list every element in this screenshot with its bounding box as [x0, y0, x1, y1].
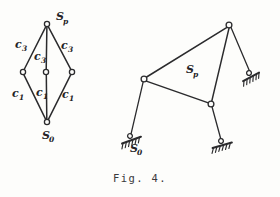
graph-joint-middle-center — [43, 69, 48, 74]
ground-support-right-upper — [238, 67, 261, 87]
graph-joint-sp — [44, 21, 49, 26]
graph-edge-label-c1-left: c — [12, 87, 19, 100]
coupler-edge-left-to-lower-right — [145, 81, 210, 104]
mechanism-joint-left — [141, 76, 147, 82]
graph-edge-label-c1-center-subscript: 1 — [43, 92, 48, 101]
graph-edge-label-c3-center: c — [34, 50, 41, 63]
graph-joint-s0 — [44, 119, 49, 124]
graph-joint-middle-left — [20, 69, 25, 74]
figure-caption-row: Fig. 4. — [0, 168, 280, 186]
graph-edge-label-c3-right: c — [61, 39, 68, 52]
kinematic-graph-rhombus: S p S 0 c 3 c 3 c 3 c 1 c 1 c 1 — [12, 10, 75, 144]
graph-edge-label-c1-right-subscript: 1 — [69, 94, 74, 103]
link-lower-right-to-ground-right-lower — [212, 106, 221, 139]
graph-edge-label-c3-left-subscript: 3 — [22, 44, 27, 53]
mechanism-label-sp-subscript: p — [193, 70, 199, 79]
ground-pivot-left-lower — [127, 133, 133, 139]
graph-label-sp-subscript: p — [63, 17, 69, 26]
ground-support-right-lower — [209, 136, 233, 153]
figure-caption: Fig. 4. — [113, 172, 167, 184]
graph-joint-middle-right — [69, 69, 74, 74]
linkage-mechanism: S p S 0 — [118, 22, 261, 157]
coupler-edge-apex-to-lower-right — [212, 27, 230, 101]
mechanism-joint-lower-right — [208, 101, 214, 107]
graph-edge-label-c3-center-subscript: 3 — [41, 56, 46, 65]
graph-edge-label-c3-right-subscript: 3 — [68, 45, 73, 54]
graph-edge-label-c1-right: c — [62, 88, 69, 101]
graph-label-s0-subscript: 0 — [49, 135, 55, 144]
graph-edge-label-c3-left: c — [15, 38, 22, 51]
graph-edge-label-c1-left-subscript: 1 — [19, 93, 24, 102]
ground-pivot-right-lower — [218, 138, 224, 144]
graph-edge-label-c1-center: c — [36, 86, 43, 99]
link-left-to-ground-left-lower — [131, 81, 143, 134]
link-apex-to-ground-right-upper — [231, 27, 250, 72]
figure-4-container: S p S 0 c 3 c 3 c 3 c 1 c 1 c 1 — [0, 0, 280, 197]
mechanism-label-s0-subscript: 0 — [137, 148, 143, 157]
ground-pivot-right-upper — [246, 70, 252, 76]
mechanism-joint-apex — [226, 22, 232, 28]
graph-edge-sp-center — [46, 26, 47, 71]
